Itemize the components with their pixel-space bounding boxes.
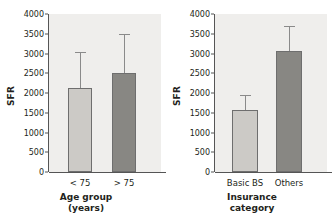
y-tick-label: 2000 (24, 89, 44, 98)
error-bar-cap-age-gt75 (119, 34, 130, 35)
y-tick-label: 1000 (24, 128, 44, 137)
y-tick-label: 0 (205, 168, 210, 177)
figure: SFR 4000 3500 3000 2500 2000 1500 1000 5… (0, 0, 332, 222)
y-tick-label: 1000 (190, 128, 210, 137)
bar-age-gt75 (112, 73, 136, 172)
y-tick-label: 500 (195, 148, 210, 157)
y-tick-label: 2500 (24, 69, 44, 78)
x-axis-label-line2: (years) (6, 203, 166, 214)
x-axis-label-line1: Age group (6, 192, 166, 203)
x-category-label-lt75: < 75 (70, 178, 91, 188)
x-category-label-basic-bs: Basic BS (227, 178, 263, 188)
y-tick-label: 2500 (190, 69, 210, 78)
error-bar-line-others (289, 26, 290, 52)
y-axis-tick-labels: 4000 3500 3000 2500 2000 1500 1000 500 0 (180, 0, 210, 222)
error-bar-line-age-gt75 (124, 34, 125, 74)
y-tick-label: 2000 (190, 89, 210, 98)
bar-age-lt75 (68, 88, 92, 172)
chart-panel-age-group: SFR 4000 3500 3000 2500 2000 1500 1000 5… (0, 0, 166, 222)
y-tick-label: 3000 (24, 49, 44, 58)
chart-panel-insurance-category: SFR 4000 3500 3000 2500 2000 1500 1000 5… (166, 0, 332, 222)
error-bar-line-age-lt75 (80, 52, 81, 89)
x-category-label-others: Others (275, 178, 304, 188)
x-axis-label: Insurance category (172, 192, 332, 214)
bar-insurance-basic-bs (232, 110, 258, 172)
x-axis-line (49, 172, 166, 173)
y-axis-tick-labels: 4000 3500 3000 2500 2000 1500 1000 500 0 (14, 0, 44, 222)
y-tick-label: 4000 (24, 10, 44, 19)
x-axis-label-line1: Insurance (172, 192, 332, 203)
y-tick-label: 4000 (190, 10, 210, 19)
error-bar-cap-age-lt75 (75, 52, 86, 53)
x-axis-label-line2: category (172, 203, 332, 214)
x-category-label-gt75: > 75 (114, 178, 135, 188)
y-tick-label: 3500 (190, 29, 210, 38)
y-tick-label: 1500 (24, 108, 44, 117)
error-bar-cap-others (284, 26, 295, 27)
plot-area (49, 14, 161, 172)
y-tick-label: 3000 (190, 49, 210, 58)
y-tick-label: 1500 (190, 108, 210, 117)
bar-insurance-others (276, 51, 302, 172)
y-tick-label: 0 (39, 168, 44, 177)
error-bar-line-basic-bs (245, 95, 246, 111)
x-axis-line (215, 172, 332, 173)
error-bar-cap-basic-bs (240, 95, 251, 96)
x-axis-label: Age group (years) (6, 192, 166, 214)
y-tick-label: 3500 (24, 29, 44, 38)
y-tick-label: 500 (29, 148, 44, 157)
